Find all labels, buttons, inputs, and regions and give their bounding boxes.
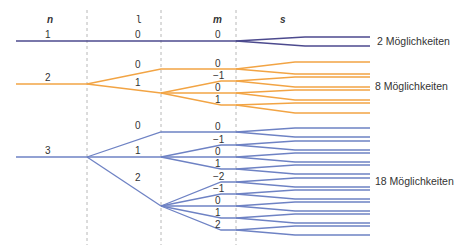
- m-value: −2: [213, 171, 225, 182]
- l-value: 1: [135, 145, 141, 156]
- header-n: n: [47, 14, 53, 25]
- m-value: 0: [215, 58, 221, 69]
- l-value: 0: [135, 29, 141, 40]
- m-value: −1: [213, 70, 225, 81]
- m-value: 0: [215, 146, 221, 157]
- labels-n3: 3 0 1 2 0 −1 0 1 −2 −1 0 1 2 18 Möglichk…: [45, 120, 454, 230]
- n-value: 2: [45, 72, 51, 83]
- l-value: 2: [135, 172, 141, 183]
- m-value: 2: [215, 219, 221, 230]
- m-value: −1: [213, 134, 225, 145]
- m-value: −1: [213, 183, 225, 194]
- l-value: 1: [135, 77, 141, 88]
- branch-group-n2: [16, 62, 370, 113]
- total-label-n1: 2 Möglichkeiten: [377, 35, 450, 47]
- column-headers: n l m s: [47, 14, 286, 25]
- labels-n1: 1 0 0 2 Möglichkeiten: [45, 29, 450, 47]
- n-value: 3: [45, 145, 51, 156]
- header-m: m: [213, 14, 222, 25]
- l-value: 0: [135, 59, 141, 70]
- m-value: 0: [215, 195, 221, 206]
- branch-group-n1: [16, 37, 370, 46]
- header-l: l: [136, 14, 142, 25]
- quantum-numbers-tree-diagram: n l m s 1 0 0 2 Möglichkeiten 2: [0, 0, 463, 251]
- column-guides: [87, 10, 236, 245]
- m-value: 0: [215, 29, 221, 40]
- l-value: 0: [135, 120, 141, 131]
- m-value: 0: [215, 82, 221, 93]
- m-value: 1: [215, 94, 221, 105]
- m-value: 1: [215, 158, 221, 169]
- header-s: s: [280, 14, 286, 25]
- total-label-n2: 8 Möglichkeiten: [375, 80, 448, 92]
- total-label-n3: 18 Möglichkeiten: [375, 175, 454, 187]
- m-value: 0: [215, 121, 221, 132]
- m-value: 1: [215, 207, 221, 218]
- n-value: 1: [45, 29, 51, 40]
- branch-group-n3: [16, 128, 370, 235]
